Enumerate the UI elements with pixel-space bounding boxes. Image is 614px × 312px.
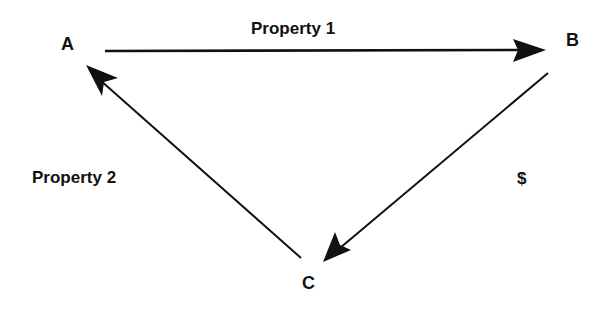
node-b-label: B (566, 31, 579, 49)
edge-label-dollar: $ (517, 170, 526, 187)
diagram-arrows (0, 0, 614, 312)
edge-label-property-2: Property 2 (32, 169, 116, 186)
edge-b-to-c (323, 73, 548, 262)
node-a-label: A (61, 35, 74, 53)
arrowhead-icon (513, 39, 546, 62)
triangle-exchange-diagram: A B C Property 1 $ Property 2 (0, 0, 614, 312)
edge-a-to-b (105, 39, 546, 62)
node-c-label: C (302, 274, 315, 292)
arrowhead-icon (323, 232, 351, 262)
edge-c-to-a (86, 65, 301, 258)
edge-label-property-1: Property 1 (251, 20, 335, 37)
